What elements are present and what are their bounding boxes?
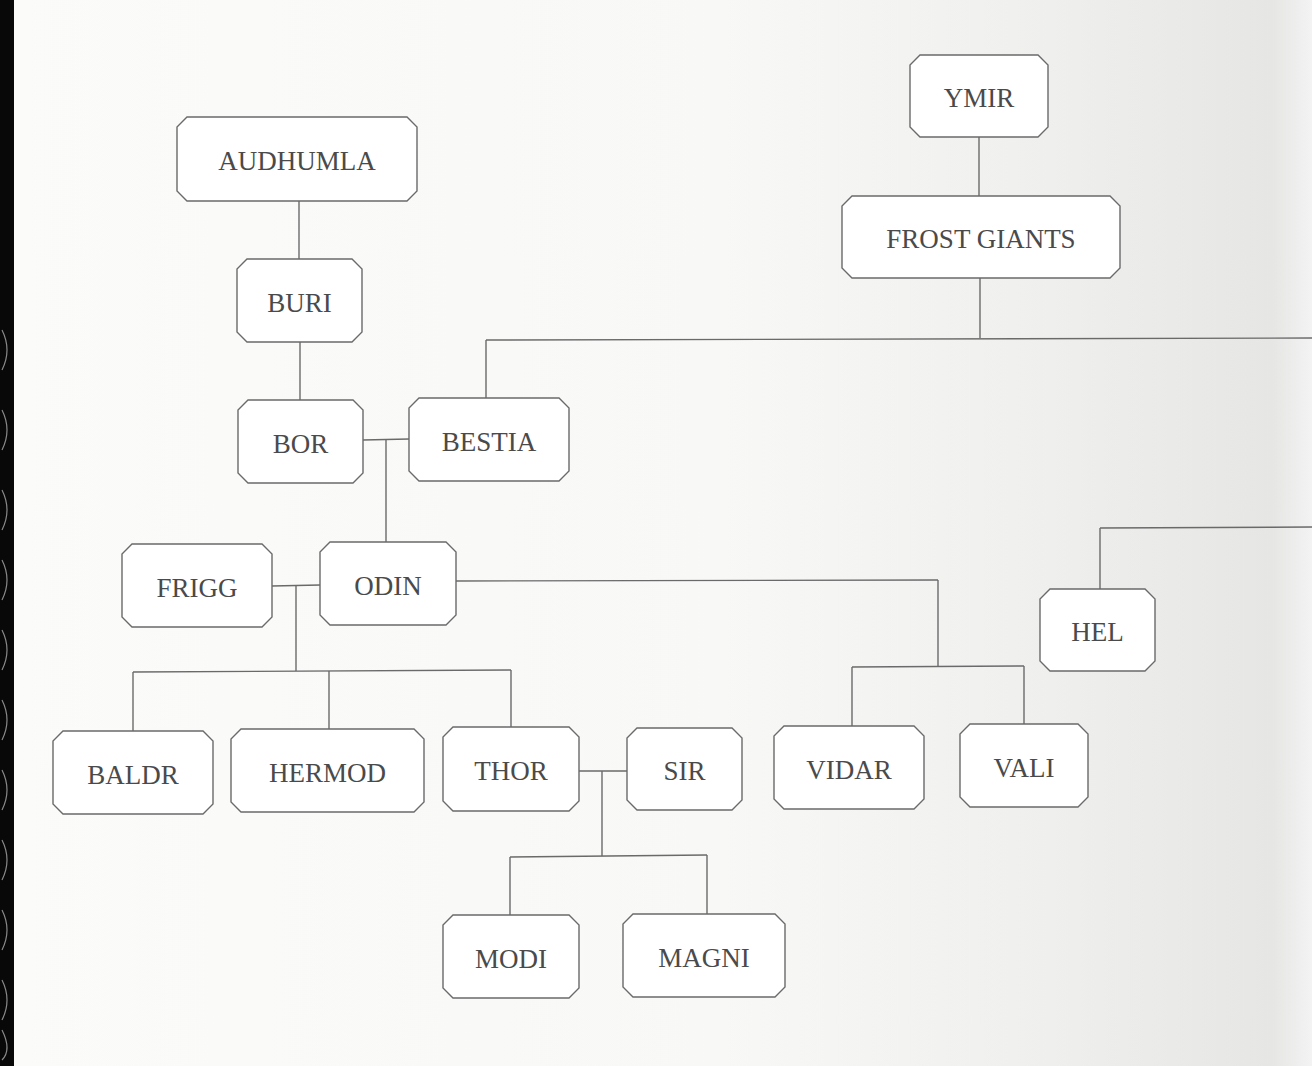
node-label: YMIR (944, 83, 1015, 113)
node-baldr: BALDR (53, 731, 213, 814)
connector-line (363, 439, 409, 440)
node-bestia: BESTIA (409, 398, 569, 481)
node-label: VALI (993, 753, 1054, 783)
connector-line (510, 855, 707, 857)
node-label: BOR (273, 429, 329, 459)
node-label: MAGNI (658, 943, 750, 973)
node-odin: ODIN (320, 542, 456, 625)
node-magni: MAGNI (623, 914, 785, 997)
node-sir: SIR (627, 728, 742, 810)
node-ymir: YMIR (910, 55, 1048, 137)
connector-line (272, 585, 320, 586)
node-vidar: VIDAR (774, 726, 924, 809)
node-frost-giants: FROST GIANTS (842, 196, 1120, 278)
node-label: SIR (663, 756, 705, 786)
node-label: FRIGG (156, 573, 237, 603)
connector-line (852, 666, 1024, 667)
node-audhumla: AUDHUMLA (177, 117, 417, 201)
node-bor: BOR (238, 400, 363, 483)
connector-line (133, 670, 511, 672)
node-vali: VALI (960, 724, 1088, 807)
node-label: HERMOD (269, 758, 386, 788)
connector-line (486, 338, 1312, 340)
connector-line (456, 580, 938, 581)
node-label: MODI (475, 944, 547, 974)
node-buri: BURI (237, 259, 362, 342)
node-label: BURI (267, 288, 332, 318)
node-thor: THOR (443, 727, 579, 811)
node-hermod: HERMOD (231, 729, 424, 812)
connector-line (1100, 527, 1312, 528)
node-label: BALDR (87, 760, 179, 790)
family-tree-diagram: YMIRFROST GIANTSAUDHUMLABURIBORBESTIAFRI… (0, 0, 1312, 1066)
node-label: FROST GIANTS (886, 224, 1075, 254)
node-label: VIDAR (806, 755, 892, 785)
node-label: AUDHUMLA (218, 146, 376, 176)
node-label: ODIN (354, 571, 422, 601)
node-label: BESTIA (442, 427, 537, 457)
node-frigg: FRIGG (122, 544, 272, 627)
node-modi: MODI (443, 915, 579, 998)
node-label: HEL (1071, 617, 1123, 647)
node-label: THOR (474, 756, 548, 786)
node-hel: HEL (1040, 589, 1155, 671)
